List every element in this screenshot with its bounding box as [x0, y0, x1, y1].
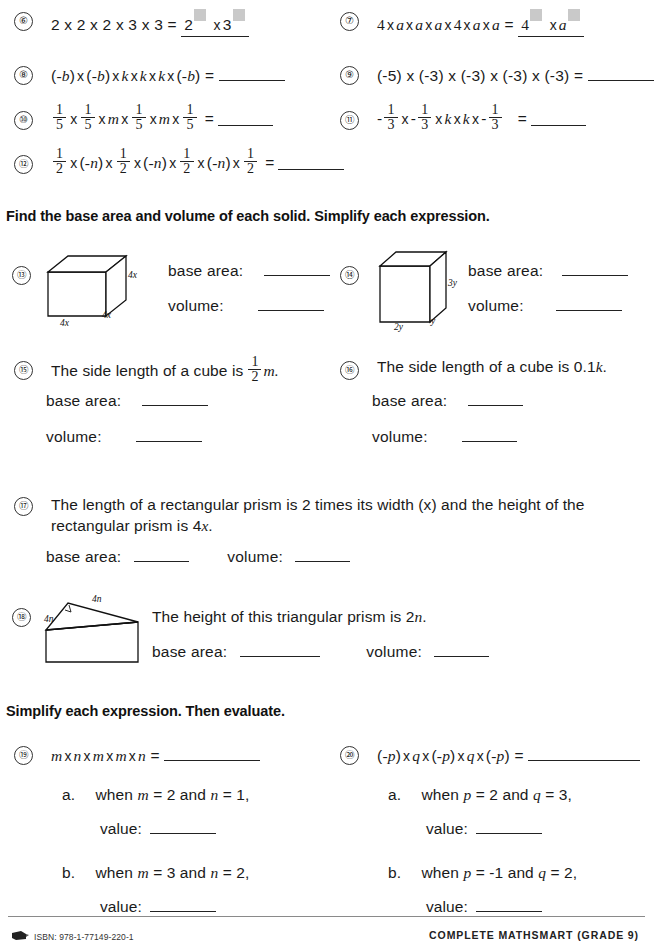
- q16-variable: k: [596, 358, 603, 375]
- q6-expression-text: 2 x 2 x 2 x 3 x 3 =: [51, 16, 177, 33]
- question-number-10: ⑩: [14, 111, 33, 130]
- q19-value-a-row: value:: [100, 818, 216, 839]
- q19-sub-b: b. when m = 3 and n = 2,: [62, 862, 249, 883]
- q14-volume-row: volume:: [468, 297, 622, 315]
- footer-divider: [8, 916, 645, 917]
- q18-volume-blank[interactable]: [434, 643, 489, 657]
- q6-mult-sign: x: [212, 17, 223, 33]
- question-10-expression: 15 x 15 xmx 15 xmx 15 =: [51, 104, 273, 133]
- q7-mult-sign: x: [548, 17, 559, 33]
- fraction-one-half: 12: [248, 355, 261, 384]
- question-number-6: ⑥: [14, 12, 33, 31]
- base-area-label: base area:: [372, 392, 447, 409]
- q10-answer-blank[interactable]: [218, 112, 273, 126]
- q18-base-area-blank[interactable]: [240, 643, 320, 657]
- q16-statement: The side length of a cube is 0.1k.: [377, 356, 607, 377]
- q18-statement: The height of this triangular prism is 2…: [152, 606, 427, 627]
- exponent-placeholder-box[interactable]: [194, 9, 206, 21]
- value-label: value:: [100, 820, 142, 837]
- volume-label: volume:: [168, 297, 224, 314]
- q15-base-area-row: base area:: [46, 392, 208, 410]
- question-11-expression: - 13 x- 13 xk xk x- 13 =: [377, 104, 586, 133]
- question-number-19: ⑲: [14, 746, 33, 765]
- question-7-expression: 4xaxaxax4xaxa = 4 xa: [377, 12, 584, 37]
- q15-text-after: m.: [263, 360, 278, 381]
- q16-text-before: The side length of a cube is 0.1: [377, 358, 596, 375]
- prism-label-bottom-right: y: [431, 316, 435, 326]
- q13-volume-row: volume:: [168, 297, 324, 315]
- base-area-label: base area:: [468, 262, 543, 279]
- tri-label-left: 4n: [44, 614, 54, 624]
- exponent-placeholder-box[interactable]: [530, 9, 542, 21]
- value-label: value:: [426, 820, 468, 837]
- q9-answer-blank[interactable]: [588, 67, 654, 81]
- volume-label: volume:: [227, 548, 283, 565]
- question-12-expression: 12 x(-n)x 12 x(-n)x 12 x(-n)x 12 =: [51, 148, 344, 177]
- q19-value-b-blank[interactable]: [150, 898, 216, 912]
- q8-answer-blank[interactable]: [219, 67, 285, 81]
- value-label: value:: [426, 898, 468, 915]
- question-6: ⑥ 2 x 2 x 2 x 3 x 3 = 2 x3: [14, 12, 249, 37]
- fraction-one-fifth: 15: [53, 103, 66, 132]
- q15-volume-row: volume:: [46, 428, 202, 446]
- q6-base-2: 3: [223, 16, 232, 33]
- q20-value-a-blank[interactable]: [476, 820, 542, 834]
- q12-answer-blank[interactable]: [278, 156, 344, 170]
- question-number-13: ⑬: [12, 266, 31, 285]
- q15-volume-blank[interactable]: [136, 428, 202, 442]
- q20-value-a-row: value:: [426, 818, 542, 839]
- q11-answer-blank[interactable]: [531, 112, 586, 126]
- q14-volume-blank[interactable]: [556, 297, 622, 311]
- q17-volume-blank[interactable]: [295, 548, 350, 562]
- question-6-expression: 2 x 2 x 2 x 3 x 3 = 2 x3: [51, 12, 249, 37]
- q19-answer-blank[interactable]: [164, 747, 260, 761]
- q17-line-1: The length of a rectangular prism is 2 t…: [51, 494, 655, 515]
- exponent-placeholder-box[interactable]: [568, 9, 580, 21]
- q16-base-area-blank[interactable]: [468, 392, 523, 406]
- prism-label-side-right: 3y: [448, 278, 457, 288]
- question-8-expression: (-b)x(-b)xkxkxkx(-b) =: [51, 66, 285, 86]
- question-number-18: ⑱: [12, 608, 31, 627]
- question-9-expression: (-5) x (-3) x (-3) x (-3) x (-3) =: [377, 66, 654, 86]
- figure-rect-prism-q14: 2y y 3y: [368, 246, 478, 331]
- figure-triangular-prism-q18: 4n 4n: [36, 592, 166, 672]
- sub-marker-a: a.: [62, 786, 75, 803]
- isbn-text: ISBN: 978-1-77149-220-1: [34, 932, 134, 942]
- question-number-7: ⑦: [340, 12, 359, 31]
- q14-base-area-blank[interactable]: [562, 262, 628, 276]
- q7-answer-blank[interactable]: 4 xa: [518, 12, 584, 37]
- question-number-14: ⑭: [340, 266, 359, 285]
- q11-variable: k: [445, 109, 452, 129]
- fraction-one-half: 12: [244, 147, 257, 176]
- question-number-9: ⑨: [340, 66, 359, 85]
- question-number-15: ⑮: [14, 361, 33, 380]
- q7-base-2: a: [559, 16, 567, 33]
- q16-volume-blank[interactable]: [462, 428, 517, 442]
- volume-label: volume:: [372, 428, 428, 445]
- q9-expression-text: (-5) x (-3) x (-3) x (-3) x (-3) =: [377, 67, 583, 84]
- fraction-one-third: 13: [384, 103, 397, 132]
- q11-variable: k: [463, 109, 470, 129]
- question-16: ⑯ The side length of a cube is 0.1k.: [340, 356, 607, 377]
- question-number-11: ⑪: [340, 111, 359, 130]
- question-number-20: ⑳: [340, 746, 359, 765]
- q16-base-area-row: base area:: [372, 392, 523, 410]
- q17-answers-row: base area: volume:: [46, 548, 350, 566]
- q6-answer-blank[interactable]: 2 x3: [181, 12, 248, 37]
- cube-label-bottom-right: 4x: [102, 310, 111, 320]
- q15-statement: The side length of a cube is 12 m.: [51, 356, 279, 385]
- fraction-one-half: 12: [117, 147, 130, 176]
- q19-value-a-blank[interactable]: [150, 820, 216, 834]
- q7-base-1: 4: [521, 16, 529, 33]
- question-19-expression: mxnxmxmxn =: [51, 746, 260, 766]
- q13-volume-blank[interactable]: [258, 297, 324, 311]
- q6-base-1: 2: [184, 16, 193, 33]
- q13-base-area-blank[interactable]: [264, 262, 330, 276]
- q20-value-b-blank[interactable]: [476, 898, 542, 912]
- exponent-placeholder-box[interactable]: [233, 9, 245, 21]
- q17-base-area-blank[interactable]: [134, 548, 189, 562]
- sub-marker-b: b.: [388, 864, 401, 881]
- q20-answer-blank[interactable]: [528, 747, 640, 761]
- q15-base-area-blank[interactable]: [142, 392, 208, 406]
- question-8: ⑧ (-b)x(-b)xkxkxkx(-b) =: [14, 66, 285, 86]
